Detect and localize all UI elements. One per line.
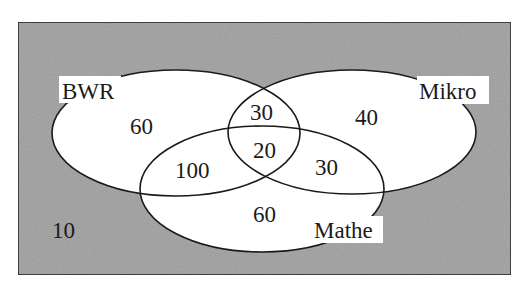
region-mathe-only: 60 xyxy=(253,202,276,227)
region-bwr-mikro: 30 xyxy=(250,100,273,125)
region-none: 10 xyxy=(52,218,75,243)
set-label-mathe: Mathe xyxy=(314,218,373,243)
set-label-mikro: Mikro xyxy=(419,79,477,104)
region-mikro-mathe: 30 xyxy=(315,155,338,180)
region-all-three: 20 xyxy=(253,138,276,163)
region-bwr-only: 60 xyxy=(130,114,153,139)
region-bwr-mathe: 100 xyxy=(175,158,210,183)
venn-diagram: BWR Mikro Mathe 60 40 30 20 100 30 60 10 xyxy=(0,0,529,294)
set-label-bwr: BWR xyxy=(62,79,115,104)
region-mikro-only: 40 xyxy=(355,105,378,130)
